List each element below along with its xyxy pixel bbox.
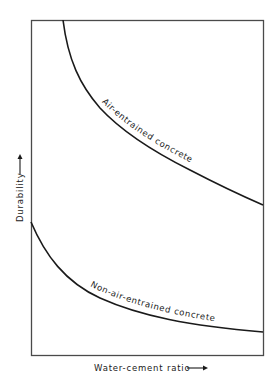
y-axis-arrow-icon (18, 154, 23, 174)
air-entrained-label: Air-entrained concrete (100, 96, 194, 164)
air-entrained-curve (63, 20, 263, 205)
y-axis-label: Durability (15, 173, 25, 222)
chart: Air-entrained concrete Non-air-entrained… (0, 0, 276, 380)
non-air-entrained-curve (31, 222, 263, 332)
x-axis-label: Water-cement ratio (94, 363, 190, 373)
